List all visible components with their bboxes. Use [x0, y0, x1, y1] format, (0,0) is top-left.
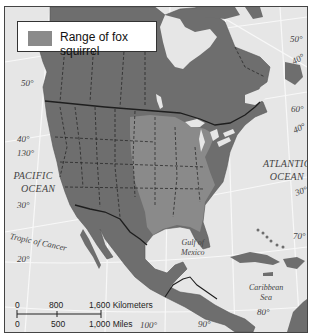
- legend: Range of fox squirrel: [17, 21, 157, 52]
- island: [276, 244, 279, 247]
- island: [262, 232, 265, 235]
- cuba: [230, 252, 280, 265]
- south-america: [287, 299, 307, 332]
- km-tick-800: 800: [49, 300, 63, 310]
- pacific-line-2: OCEAN: [21, 184, 55, 194]
- gulf-line-1: Gulf of: [181, 239, 205, 247]
- lat-20-west-label: 20°: [17, 255, 30, 264]
- gulf-of-mexico-label: Gulf of Mexico: [181, 239, 205, 257]
- atlantic-ocean-label: ATLANTIC OCEAN: [263, 159, 308, 182]
- lon-90-label: 90°: [198, 320, 211, 329]
- lon-130-label: 130°: [17, 149, 34, 158]
- km-tick-1600: 1,600 Kilometers: [89, 300, 153, 310]
- km-tick-0: 0: [15, 300, 20, 310]
- lat-50-east-label: 50°: [290, 35, 303, 44]
- lon-100-label: 100°: [140, 321, 157, 330]
- lat-50-west-label: 50°: [21, 79, 34, 88]
- map-frame: 50° 40° 130° PACIFIC OCEAN 30° Tropic of…: [4, 6, 308, 333]
- lon-70-label: 70°: [293, 232, 306, 241]
- gulf-line-2: Mexico: [181, 249, 205, 257]
- legend-label: Range of fox squirrel: [60, 30, 156, 58]
- range-swatch: [28, 31, 52, 46]
- atlantic-line-2: OCEAN: [263, 172, 308, 182]
- caribbean-line-1: Caribbean: [249, 284, 283, 292]
- mi-tick-1000: 1,000 Miles: [89, 319, 132, 329]
- pacific-ocean-label: PACIFIC OCEAN: [11, 171, 55, 194]
- island: [257, 229, 260, 232]
- scale-line: [15, 310, 105, 318]
- mi-tick-500: 500: [51, 319, 65, 329]
- jamaica: [263, 272, 273, 276]
- lon-60-label: 60°: [291, 105, 304, 114]
- hispaniola: [283, 257, 305, 269]
- mi-tick-0: 0: [15, 319, 20, 329]
- island: [266, 236, 269, 239]
- island: [270, 240, 273, 243]
- bahamas: [257, 229, 285, 249]
- island: [282, 246, 285, 249]
- caribbean-line-2: Sea: [249, 294, 283, 302]
- caribbean-sea-label: Caribbean Sea: [249, 284, 283, 302]
- atlantic-line-1: ATLANTIC: [263, 159, 308, 169]
- lat-40-west-label: 40°: [17, 135, 30, 144]
- pacific-line-1: PACIFIC: [11, 171, 55, 181]
- lon-80-label: 80°: [257, 308, 270, 317]
- lat-30-west-label: 30°: [17, 201, 30, 210]
